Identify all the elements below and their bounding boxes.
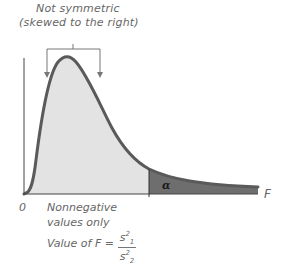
- origin-label: 0: [19, 201, 26, 214]
- nonnegative-label: Nonnegative: [47, 201, 117, 214]
- annotation-not-symmetric: Not symmetric: [36, 2, 120, 15]
- values-only-label: values only: [47, 216, 110, 229]
- alpha-label: α: [162, 179, 170, 192]
- annotation-skewed-right: (skewed to the right): [19, 16, 139, 29]
- value-of-f-label: Value of F =: [47, 237, 114, 250]
- x-axis-label: F: [264, 187, 271, 201]
- arrow-left-icon: [44, 72, 50, 78]
- f-distribution-diagram: [0, 0, 286, 277]
- f-ratio-fraction: s21 s22: [118, 230, 136, 265]
- fraction-numerator: s21: [118, 230, 136, 248]
- arrow-right-icon: [97, 72, 103, 78]
- fraction-denominator: s22: [118, 248, 136, 265]
